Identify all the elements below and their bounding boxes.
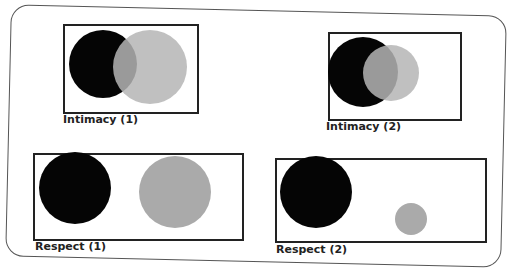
gray-circle	[363, 45, 419, 101]
panel-label: Intimacy (1)	[63, 113, 138, 126]
gray-circle	[139, 156, 211, 228]
black-circle	[280, 156, 352, 228]
panel-label: Respect (1)	[35, 240, 106, 253]
gray-circle	[113, 30, 187, 104]
panel-label: Intimacy (2)	[326, 120, 401, 133]
gray-circle	[395, 203, 427, 235]
black-circle	[39, 152, 111, 224]
panel-label: Respect (2)	[276, 243, 347, 256]
